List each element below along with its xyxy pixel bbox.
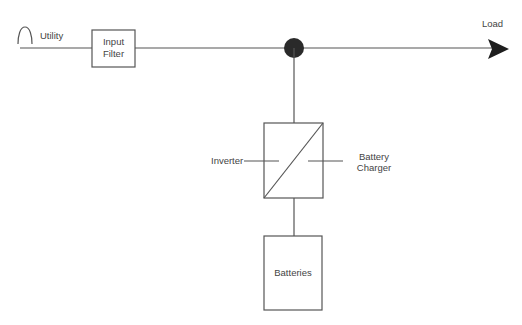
input-filter-label-2: Filter [92,48,135,59]
sine-wave-icon [18,27,32,44]
batteries-label: Batteries [264,267,322,278]
battery-charger-label-2: Charger [350,162,398,173]
input-filter-label-1: Input [92,36,135,47]
inverter-label: Inverter [211,155,243,166]
battery-charger-label-1: Battery [350,151,398,162]
diagram-canvas [0,0,522,325]
utility-label: Utility [40,30,63,41]
load-arrow-icon [488,39,509,59]
load-label: Load [482,18,503,29]
